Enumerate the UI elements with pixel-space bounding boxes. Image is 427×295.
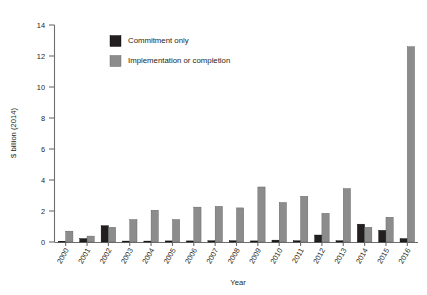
bar-commitment-only: [144, 241, 151, 242]
y-tick-label: 12: [37, 52, 45, 61]
x-tick-label-2004: 2004: [140, 247, 156, 266]
x-tick-label-2000: 2000: [55, 247, 71, 266]
y-axis-title: $ billion (2014): [9, 108, 18, 158]
bar-implementation-or-completion: [365, 227, 372, 242]
bar-commitment-only: [208, 241, 215, 242]
bar-commitment-only: [272, 240, 279, 242]
y-tick-label: 4: [41, 176, 45, 185]
bar-implementation-or-completion: [343, 189, 350, 242]
x-tick-label-2010: 2010: [268, 247, 284, 266]
bar-commitment-only: [251, 241, 258, 242]
chart-legend: Commitment onlyImplementation or complet…: [110, 36, 230, 67]
bar-commitment-only: [357, 224, 364, 242]
bar-implementation-or-completion: [258, 187, 265, 242]
x-tick-label-2015: 2015: [375, 247, 391, 266]
legend-label-implementation-or-completion: Implementation or completion: [128, 56, 230, 65]
legend-swatch-commitment-only: [110, 36, 121, 47]
bar-commitment-only: [101, 226, 108, 242]
y-tick-label: 0: [41, 238, 45, 247]
bar-implementation-or-completion: [194, 207, 201, 242]
bar-implementation-or-completion: [87, 236, 94, 242]
bar-commitment-only: [58, 241, 65, 242]
y-tick-label: 10: [37, 83, 45, 92]
x-tick-label-2012: 2012: [311, 247, 327, 266]
x-tick-label-2006: 2006: [183, 247, 199, 266]
bar-implementation-or-completion: [237, 208, 244, 242]
bar-implementation-or-completion: [279, 202, 286, 242]
bar-chart: 02468101214 2000200120022003200420052006…: [0, 0, 427, 295]
bar-implementation-or-completion: [108, 227, 115, 242]
bar-commitment-only: [379, 230, 386, 242]
bar-commitment-only: [400, 239, 407, 242]
bar-commitment-only: [229, 241, 236, 242]
bar-implementation-or-completion: [151, 210, 158, 242]
y-tick-label: 14: [37, 21, 45, 30]
x-tick-label-2009: 2009: [247, 247, 263, 266]
x-tick-label-2002: 2002: [98, 247, 114, 266]
x-axis-title: Year: [230, 278, 246, 287]
bar-commitment-only: [336, 241, 343, 242]
bar-implementation-or-completion: [301, 196, 308, 242]
bar-implementation-or-completion: [66, 231, 73, 242]
bar-implementation-or-completion: [407, 47, 414, 242]
x-tick-label-2008: 2008: [226, 247, 242, 266]
legend-label-commitment-only: Commitment only: [128, 36, 189, 45]
bar-implementation-or-completion: [130, 220, 137, 242]
x-tick-label-2011: 2011: [290, 247, 306, 265]
bar-commitment-only: [80, 239, 87, 242]
bar-commitment-only: [187, 241, 194, 242]
x-tick-label-2016: 2016: [397, 247, 413, 266]
x-tick-label-2007: 2007: [204, 247, 220, 266]
x-tick-group: 2000200120022003200420052006200720082009…: [55, 243, 413, 266]
bar-commitment-only: [315, 235, 322, 242]
bar-implementation-or-completion: [386, 217, 393, 242]
bar-implementation-or-completion: [322, 213, 329, 242]
chart-container: 02468101214 2000200120022003200420052006…: [0, 0, 427, 295]
bar-commitment-only: [122, 241, 129, 242]
x-tick-label-2014: 2014: [354, 247, 370, 266]
y-tick-label: 6: [41, 145, 45, 154]
bar-commitment-only: [293, 241, 300, 242]
bar-implementation-or-completion: [172, 220, 179, 242]
bar-commitment-only: [165, 241, 172, 242]
y-tick-label: 2: [41, 207, 45, 216]
bar-implementation-or-completion: [215, 206, 222, 242]
x-tick-label-2013: 2013: [332, 247, 348, 266]
x-tick-label-2003: 2003: [119, 247, 135, 266]
x-tick-label-2001: 2001: [76, 247, 92, 266]
y-tick-label: 8: [41, 114, 45, 123]
x-tick-label-2005: 2005: [162, 247, 178, 266]
bars-group: [58, 47, 414, 242]
legend-swatch-implementation-or-completion: [110, 56, 121, 67]
y-tick-group: 02468101214: [37, 21, 55, 247]
